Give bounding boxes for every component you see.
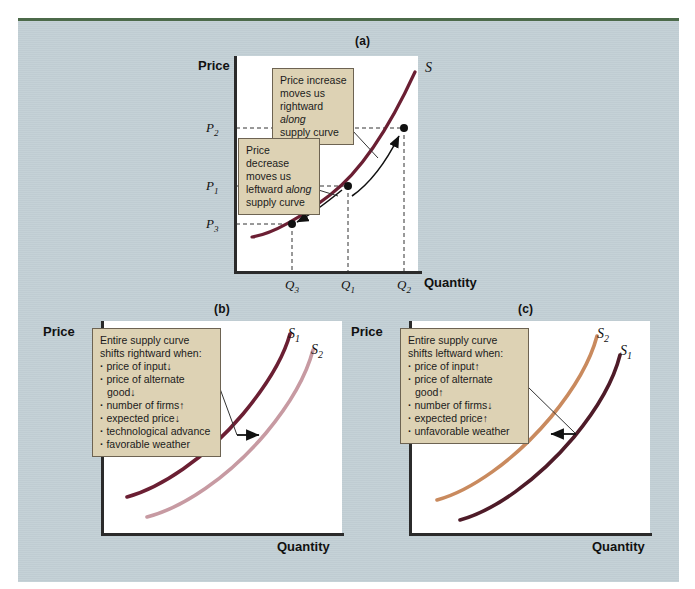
panel-c-curve-label-s1: S1 — [620, 343, 632, 361]
panel-c-graphics — [0, 0, 695, 589]
supply-curve-figure: (a) Price Quantity P2 P1 P3 Q3 Q1 Q2 — [0, 0, 695, 589]
panel-c-callout-bullets: price of input price of alternate good n… — [408, 360, 522, 438]
panel-c-callout-leftward-shift: Entire supply curve shifts leftward when… — [400, 328, 529, 444]
list-item: number of firms — [408, 399, 522, 412]
callout-heading: Entire supply curve — [408, 334, 522, 347]
list-item: expected price — [408, 412, 522, 425]
callout-heading: shifts leftward when: — [408, 347, 522, 360]
list-item: price of input — [408, 360, 522, 373]
panel-c-curve-label-s2: S2 — [597, 326, 609, 344]
list-item: price of alternate good — [408, 373, 522, 399]
list-item: unfavorable weather — [408, 425, 522, 438]
